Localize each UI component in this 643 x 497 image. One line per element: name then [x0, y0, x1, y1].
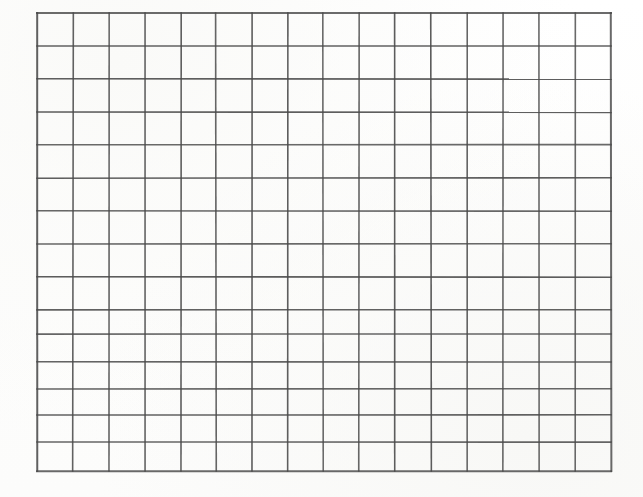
grid-cell[interactable] — [323, 46, 359, 79]
grid-cell[interactable] — [539, 145, 575, 178]
grid-cell[interactable] — [539, 46, 575, 79]
grid-cell[interactable] — [431, 145, 467, 178]
grid-cell[interactable] — [181, 277, 216, 310]
grid-cell[interactable] — [216, 277, 252, 310]
grid-cell[interactable] — [216, 178, 252, 211]
grid-cell[interactable] — [359, 389, 395, 415]
grid-cell[interactable] — [503, 13, 539, 46]
grid-cell[interactable] — [145, 178, 181, 211]
grid-cell[interactable] — [359, 46, 395, 79]
grid-cell[interactable] — [503, 211, 539, 244]
grid-cell[interactable] — [467, 277, 503, 310]
grid-cell[interactable] — [109, 178, 145, 211]
grid-cell[interactable] — [145, 415, 181, 442]
grid-cell[interactable] — [73, 13, 109, 46]
grid-cell[interactable] — [323, 145, 359, 178]
grid-cell[interactable] — [252, 334, 288, 362]
grid-cell[interactable] — [216, 112, 252, 145]
grid-cell[interactable] — [181, 211, 216, 244]
grid-cell[interactable] — [323, 112, 359, 145]
grid-cell[interactable] — [539, 79, 575, 112]
grid-cell[interactable] — [575, 277, 611, 310]
grid-cell[interactable] — [145, 46, 181, 79]
grid-cell[interactable] — [539, 362, 575, 389]
grid-cell[interactable] — [467, 46, 503, 79]
grid-cell[interactable] — [288, 244, 323, 277]
grid-cell[interactable] — [431, 389, 467, 415]
grid-cell[interactable] — [575, 415, 611, 442]
grid-cell[interactable] — [73, 415, 109, 442]
grid-cell[interactable] — [359, 211, 395, 244]
grid-cell[interactable] — [323, 211, 359, 244]
grid-cell[interactable] — [323, 415, 359, 442]
grid-cell[interactable] — [575, 362, 611, 389]
grid-cell[interactable] — [395, 244, 431, 277]
grid-cell[interactable] — [359, 244, 395, 277]
grid-cell[interactable] — [37, 211, 73, 244]
grid-cell[interactable] — [288, 310, 323, 334]
grid-cell[interactable] — [216, 415, 252, 442]
grid-cell[interactable] — [252, 145, 288, 178]
grid-cell[interactable] — [216, 13, 252, 46]
grid-cell[interactable] — [288, 13, 323, 46]
grid-cell[interactable] — [323, 178, 359, 211]
grid-cell[interactable] — [181, 389, 216, 415]
grid-cell[interactable] — [145, 145, 181, 178]
grid-cell[interactable] — [37, 277, 73, 310]
grid-cell[interactable] — [395, 389, 431, 415]
grid-cell[interactable] — [216, 334, 252, 362]
grid-cell[interactable] — [359, 79, 395, 112]
grid-cell[interactable] — [467, 415, 503, 442]
grid-cell[interactable] — [539, 112, 575, 145]
grid-cell[interactable] — [73, 310, 109, 334]
grid-cell[interactable] — [145, 79, 181, 112]
grid-cell[interactable] — [539, 13, 575, 46]
grid-cell[interactable] — [323, 389, 359, 415]
grid-cell[interactable] — [216, 244, 252, 277]
grid-cell[interactable] — [467, 79, 503, 112]
grid-cell[interactable] — [575, 13, 611, 46]
grid-cell[interactable] — [73, 362, 109, 389]
grid-cell[interactable] — [575, 244, 611, 277]
grid-cell[interactable] — [323, 244, 359, 277]
grid-cell[interactable] — [145, 277, 181, 310]
grid-cell[interactable] — [539, 211, 575, 244]
grid-cell[interactable] — [109, 415, 145, 442]
grid-cell[interactable] — [145, 362, 181, 389]
grid-cell[interactable] — [395, 310, 431, 334]
grid-cell[interactable] — [431, 277, 467, 310]
grid-cell[interactable] — [503, 145, 539, 178]
grid-cell[interactable] — [73, 79, 109, 112]
grid-cell[interactable] — [73, 46, 109, 79]
grid-cell[interactable] — [109, 310, 145, 334]
grid-cell[interactable] — [37, 389, 73, 415]
grid-cell[interactable] — [323, 277, 359, 310]
grid-table[interactable] — [0, 0, 643, 497]
grid-cell[interactable] — [575, 334, 611, 362]
grid-cell[interactable] — [181, 112, 216, 145]
grid-cell[interactable] — [145, 211, 181, 244]
grid-cell[interactable] — [323, 79, 359, 112]
grid-cell[interactable] — [395, 277, 431, 310]
grid-cell[interactable] — [288, 145, 323, 178]
grid-cell[interactable] — [431, 79, 467, 112]
grid-cell[interactable] — [109, 112, 145, 145]
grid-cell[interactable] — [181, 13, 216, 46]
grid-cell[interactable] — [109, 362, 145, 389]
grid-cell[interactable] — [359, 415, 395, 442]
grid-cell[interactable] — [109, 79, 145, 112]
grid-cell[interactable] — [467, 334, 503, 362]
grid-cell[interactable] — [216, 46, 252, 79]
grid-cell[interactable] — [145, 244, 181, 277]
grid-cell[interactable] — [467, 178, 503, 211]
grid-cell[interactable] — [252, 112, 288, 145]
grid-cell[interactable] — [431, 334, 467, 362]
grid-cell[interactable] — [109, 277, 145, 310]
grid-cell[interactable] — [216, 389, 252, 415]
grid-cell[interactable] — [145, 310, 181, 334]
grid-cell[interactable] — [252, 46, 288, 79]
grid-cell[interactable] — [467, 13, 503, 46]
grid-cell[interactable] — [575, 178, 611, 211]
grid-cell[interactable] — [181, 178, 216, 211]
grid-cell[interactable] — [288, 211, 323, 244]
